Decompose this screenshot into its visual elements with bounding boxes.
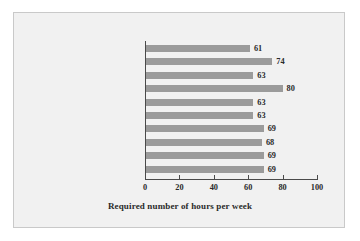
x-tick-label: 80	[271, 183, 295, 192]
bar	[145, 112, 253, 119]
bar	[145, 85, 283, 92]
bar-value-label: 69	[268, 165, 276, 174]
plot-area: British ColumbiaAlbertaSaskatchewanManit…	[14, 13, 346, 229]
x-tick-label: 60	[236, 183, 260, 192]
x-tick-label: 0	[133, 183, 157, 192]
bar	[145, 125, 264, 132]
x-axis-line	[145, 179, 318, 180]
x-tick-mark	[179, 175, 180, 179]
x-tick-label: 40	[202, 183, 226, 192]
figure-frame: British ColumbiaAlbertaSaskatchewanManit…	[13, 12, 345, 228]
bar-value-label: 63	[257, 98, 265, 107]
bar	[145, 72, 253, 79]
x-tick-mark	[145, 175, 146, 179]
bar	[145, 58, 272, 65]
bar	[145, 166, 264, 173]
bar-value-label: 61	[254, 44, 262, 53]
bar-value-label: 69	[268, 151, 276, 160]
x-tick-label: 20	[167, 183, 191, 192]
x-tick-mark	[283, 175, 284, 179]
x-tick-label: 100	[305, 183, 329, 192]
x-tick-mark	[248, 175, 249, 179]
bar-value-label: 68	[266, 138, 274, 147]
x-axis-title: Required number of hours per week	[14, 201, 346, 211]
bar-value-label: 80	[287, 84, 295, 93]
bar-value-label: 74	[276, 57, 284, 66]
y-axis-line	[145, 41, 146, 179]
x-tick-mark	[317, 175, 318, 179]
bar	[145, 45, 250, 52]
bar-value-label: 69	[268, 124, 276, 133]
x-tick-mark	[214, 175, 215, 179]
bar	[145, 152, 264, 159]
bar	[145, 139, 262, 146]
bar-value-label: 63	[257, 71, 265, 80]
bar	[145, 99, 253, 106]
chart-screenshot: British ColumbiaAlbertaSaskatchewanManit…	[0, 0, 360, 241]
bar-value-label: 63	[257, 111, 265, 120]
